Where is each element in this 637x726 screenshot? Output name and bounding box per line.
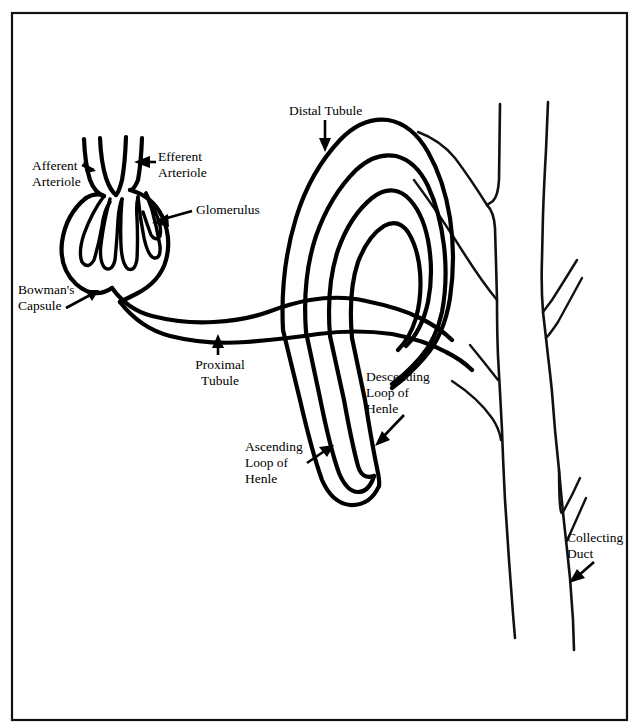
figure-border [12,13,627,720]
efferent-arteriole-label-line2: Arteriole [158,165,207,180]
nephron-diagram-figure: Afferent Arteriole Efferent Arteriole Gl… [0,0,637,726]
ascending-loop-label-line1: Ascending [245,439,303,454]
collecting-duct [414,102,586,650]
collecting-duct-right-wall [542,102,574,650]
afferent-arteriole-arrowhead [83,162,96,173]
tubule-loop-system [283,120,453,505]
ascending-loop-label-line2: Loop of [245,455,289,470]
collecting-duct-branch-3 [470,345,498,380]
label-leaders [66,120,594,583]
distal-tubule-inner-wall [305,155,445,384]
nephron-diagram-canvas: Afferent Arteriole Efferent Arteriole Gl… [0,0,637,726]
afferent-arteriole-label-line1: Afferent [32,158,78,173]
proximal-tubule-label-line1: Proximal [195,357,245,372]
afferent-arteriole-label-line2: Arteriole [32,174,81,189]
collecting-duct-label-line1: Collecting [567,530,623,545]
efferent-arteriole-label-line1: Efferent [158,149,202,164]
collecting-duct-branch-6 [546,278,582,338]
collecting-duct-branch-5 [543,260,577,312]
afferent-arteriole-right-wall [100,138,116,195]
efferent-arteriole-left-wall [116,137,126,195]
descending-loop-leader [382,415,404,438]
proximal-tubule-label-line2: Tubule [201,373,239,388]
ascending-loop-label-line3: Henle [245,471,277,486]
glomerulus-capillary-loop-1 [80,196,110,266]
glomerulus-capillary-loop-3 [121,197,138,270]
distal-tubule-label: Distal Tubule [289,103,362,118]
bowmans-capsule-label-line2: Capsule [18,298,62,313]
collecting-duct-branch-4 [452,381,501,440]
collecting-duct-branch-1 [418,132,487,205]
glomerulus-label: Glomerulus [196,202,260,217]
descending-loop-label-line3: Henle [366,401,398,416]
bowmans-capsule-label-line1: Bowman's [18,282,74,297]
glomerulus-capillary-loop-2 [101,199,123,269]
descending-loop-label-line1: Descending [366,369,430,384]
collecting-duct-label-line2: Duct [567,546,593,561]
ascending-limb-outer-wall [283,330,379,505]
descending-loop-label-line2: Loop of [366,385,410,400]
